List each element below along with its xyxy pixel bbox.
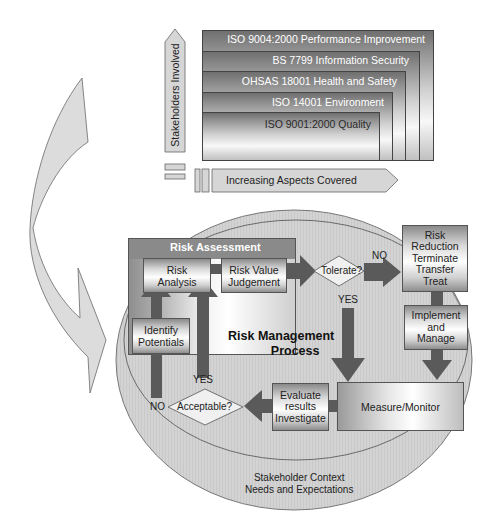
implement-line: Manage bbox=[411, 333, 460, 345]
risk-reduction-box: Risk Reduction Terminate Transfer Treat bbox=[402, 225, 468, 292]
stakeholder-context-label: Stakeholder Context Needs and Expectatio… bbox=[245, 472, 353, 496]
risk-analysis-line: Analysis bbox=[157, 276, 196, 288]
measure-monitor-label: Measure/Monitor bbox=[361, 401, 440, 413]
no-label-tolerate: NO bbox=[372, 250, 387, 261]
risk-value-judgement-box: Risk ValueJudgement bbox=[221, 258, 287, 293]
risk-value-line: Judgement bbox=[228, 276, 280, 288]
center-title-line: Risk Management bbox=[228, 329, 334, 344]
no-label-acceptable: NO bbox=[150, 401, 165, 412]
center-title-line: Process bbox=[228, 344, 334, 359]
acceptable-label: Acceptable? bbox=[177, 401, 232, 412]
yes-label-tolerate: YES bbox=[338, 294, 358, 305]
implement-manage-box: Implement and Manage bbox=[404, 305, 468, 350]
context-line: Needs and Expectations bbox=[245, 484, 353, 496]
risk-analysis-line: Risk bbox=[157, 264, 196, 276]
risk-management-process-title: Risk Management Process bbox=[228, 329, 334, 359]
tolerate-label: Tolerate? bbox=[321, 265, 362, 276]
risk-value-line: Risk Value bbox=[228, 264, 280, 276]
measure-monitor-box: Measure/Monitor bbox=[337, 382, 464, 431]
identify-line: Identify bbox=[138, 324, 184, 336]
risk-analysis-box: RiskAnalysis bbox=[143, 258, 211, 293]
context-line: Stakeholder Context bbox=[245, 472, 353, 484]
risk-reduction-line: Treat bbox=[411, 276, 458, 288]
evaluate-line: Investigate bbox=[275, 413, 326, 425]
evaluate-results-box: Evaluate results Investigate bbox=[272, 383, 329, 431]
identify-line: Potentials bbox=[138, 336, 184, 348]
identify-potentials-box: IdentifyPotentials bbox=[132, 318, 190, 354]
yes-label-acceptable: YES bbox=[193, 374, 213, 385]
